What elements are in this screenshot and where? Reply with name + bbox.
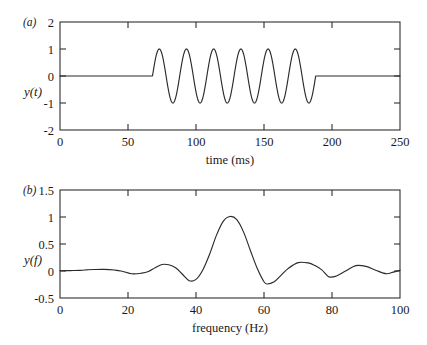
- panel-b-ytick-1: 1: [48, 211, 54, 225]
- panel-b-data-curve: [60, 216, 400, 284]
- panel-b-y-axis-label: y(f): [22, 252, 42, 267]
- panel-b-ytick-0: 0: [48, 265, 54, 279]
- panel-a-ytick-0: 0: [48, 70, 54, 84]
- panel-a-ytick-2: 2: [48, 16, 54, 30]
- figure-container: (a) y(t): [0, 0, 427, 345]
- panel-b-xtick-0: 0: [57, 303, 63, 317]
- panel-b-x-ticks: [128, 190, 332, 298]
- panel-a-x-axis-label: time (ms): [206, 153, 254, 167]
- panel-a-xtick-150: 150: [255, 135, 274, 149]
- panel-b-x-axis-label: frequency (Hz): [192, 321, 268, 335]
- panel-b-frequency-domain: (b) y(f) 1.5: [0, 172, 427, 345]
- panel-a-xtick-100: 100: [187, 135, 206, 149]
- panel-b-xtick-60: 60: [258, 303, 271, 317]
- panel-b-xtick-40: 40: [190, 303, 203, 317]
- panel-a-x-ticks: [128, 22, 332, 130]
- panel-a-xtick-50: 50: [122, 135, 135, 149]
- panel-b-xtick-100: 100: [391, 303, 410, 317]
- panel-a-plot: (a) y(t): [0, 0, 427, 172]
- panel-b-ytick-neg05: -0.5: [34, 292, 54, 306]
- panel-a-time-domain: (a) y(t): [0, 0, 427, 172]
- panel-a-xtick-200: 200: [323, 135, 342, 149]
- panel-a-xtick-250: 250: [391, 135, 410, 149]
- panel-a-ytick-neg2: -2: [44, 124, 54, 138]
- panel-a-ytick-1: 1: [48, 43, 54, 57]
- panel-b-plot: (b) y(f) 1.5: [0, 172, 427, 345]
- panel-b-plot-frame: [60, 190, 400, 298]
- panel-b-ytick-15: 1.5: [38, 184, 54, 198]
- panel-a-xtick-0: 0: [57, 135, 63, 149]
- panel-b-tag: (b): [23, 184, 37, 197]
- panel-b-xtick-80: 80: [326, 303, 339, 317]
- panel-a-y-axis-label: y(t): [22, 84, 42, 99]
- panel-a-ytick-neg1: -1: [44, 97, 54, 111]
- panel-a-data-curve: [60, 49, 400, 103]
- panel-b-ytick-05: 0.5: [38, 238, 54, 252]
- panel-b-y-ticks: [60, 217, 400, 271]
- panel-b-xtick-20: 20: [122, 303, 135, 317]
- panel-a-tag: (a): [23, 16, 37, 29]
